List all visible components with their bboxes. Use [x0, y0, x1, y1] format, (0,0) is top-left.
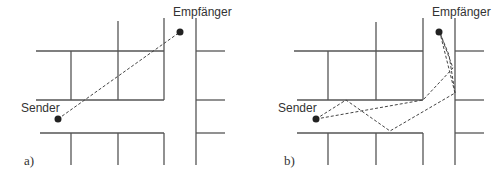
sender-dot-a — [55, 116, 62, 123]
diagram-canvas: Sender Empfänger a) Sender Empfä — [0, 0, 502, 180]
panel-label-a: a) — [24, 153, 34, 168]
street-grid-a — [36, 18, 225, 165]
receiver-dot-b — [436, 29, 443, 36]
sender-label-b: Sender — [278, 101, 317, 115]
sender-label-a: Sender — [21, 101, 60, 115]
receiver-label-b: Empfänger — [432, 5, 491, 19]
receiver-dot-a — [177, 29, 184, 36]
direct-path-a — [58, 32, 180, 119]
panel-b: Sender Empfänger b) — [278, 5, 491, 168]
panel-a: Sender Empfänger a) — [21, 5, 232, 168]
multipath-routes-b — [316, 33, 455, 131]
panel-label-b: b) — [284, 153, 295, 168]
street-grid-b — [294, 18, 484, 165]
receiver-label-a: Empfänger — [173, 5, 232, 19]
sender-dot-b — [313, 116, 320, 123]
